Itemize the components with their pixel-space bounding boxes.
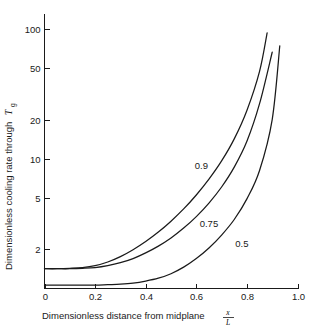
y-tick-label: 2 — [35, 244, 40, 255]
x-tick-label: 0.4 — [140, 291, 153, 302]
y-axis-title: Dimensionless cooling rate through T g — [3, 103, 17, 270]
y-tick-label: 5 — [35, 193, 40, 204]
x-axis-tick-labels: 00.20.40.60.81.0 — [43, 291, 305, 302]
x-tick-label: 0 — [43, 291, 48, 302]
curve-0.75 — [45, 52, 273, 269]
x-axis-title: Dimensionless distance from midplane x L — [42, 308, 234, 327]
x-axis-title-fraction-denominator: L — [225, 318, 230, 327]
x-axis-title-text: Dimensionless distance from midplane — [42, 310, 205, 321]
x-tick-label: 0.8 — [241, 291, 254, 302]
y-tick-label: 50 — [30, 63, 41, 74]
axes — [45, 14, 298, 289]
curve-0.9 — [45, 33, 268, 269]
x-tick-label: 0.2 — [89, 291, 102, 302]
curve-label-0.75: 0.75 — [200, 218, 219, 229]
x-axis-title-fraction-numerator: x — [225, 308, 230, 317]
x-tick-label: 0.6 — [190, 291, 203, 302]
curve-label-0.9: 0.9 — [195, 160, 208, 171]
x-axis-ticks — [46, 284, 299, 289]
svg-text:Dimensionless cooling rate thr: Dimensionless cooling rate through T g — [3, 103, 17, 270]
cooling-rate-chart: 25102050100 00.20.40.60.81.0 0.90.750.5 … — [0, 0, 320, 333]
chart-figure: 25102050100 00.20.40.60.81.0 0.90.750.5 … — [0, 0, 320, 333]
curve-label-0.5: 0.5 — [235, 238, 248, 249]
y-axis-ticks — [45, 30, 50, 250]
y-tick-label: 20 — [30, 115, 41, 126]
y-axis-tick-labels: 25102050100 — [25, 24, 41, 255]
y-axis-title-symbol: T — [4, 109, 14, 115]
y-tick-label: 100 — [25, 24, 41, 35]
y-axis-title-symbol-subscript: g — [9, 103, 17, 107]
curve-labels: 0.90.750.5 — [195, 160, 249, 249]
y-axis-title-text: Dimensionless cooling rate through — [3, 122, 14, 270]
x-tick-label: 1.0 — [292, 291, 305, 302]
y-tick-label: 10 — [30, 154, 41, 165]
